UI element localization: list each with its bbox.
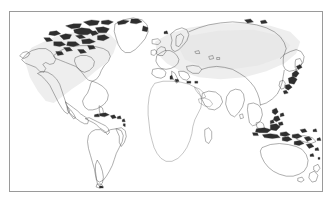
coastline-new-zealand-south <box>309 171 318 182</box>
coastline-africa <box>148 81 202 161</box>
coastline-arabia <box>202 91 223 110</box>
coastline-china-east <box>260 70 284 105</box>
island-madagascar <box>205 128 212 144</box>
coastline-india <box>226 89 245 117</box>
islands-caribbean[interactable] <box>94 113 125 127</box>
coastline-new-zealand-north <box>314 164 320 172</box>
world-map-graphic[interactable] <box>10 12 322 191</box>
coastline-south-america <box>88 129 124 182</box>
landmass-new-zealand[interactable] <box>309 164 320 182</box>
coastline-australia <box>260 144 308 177</box>
landmass-greenland[interactable] <box>114 18 148 53</box>
coastline-central-america <box>86 118 110 135</box>
island-cyprus <box>195 81 198 83</box>
islands-philippines[interactable] <box>270 108 284 126</box>
continent-australia[interactable] <box>260 136 316 182</box>
islands-mediterranean-sardinia <box>170 75 173 79</box>
coastline-tasmania <box>298 177 304 182</box>
world-map-page <box>0 0 333 209</box>
map-frame-border <box>9 11 323 192</box>
coastline-usa-east <box>83 81 109 110</box>
continent-south-america[interactable] <box>88 128 127 188</box>
islands-indonesia[interactable] <box>252 124 314 149</box>
islands-japan[interactable] <box>283 64 302 94</box>
islands-mediterranean-crete <box>187 81 191 83</box>
island-sri-lanka <box>240 114 244 119</box>
coastline-iberia <box>152 68 166 78</box>
coastline-africa-horn <box>199 98 213 107</box>
coastline-indochina <box>247 103 262 126</box>
